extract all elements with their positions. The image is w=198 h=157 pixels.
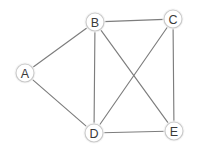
graph-node-c[interactable]: C [162,8,183,29]
graph-node-b[interactable]: B [84,11,105,32]
edge-layer [31,19,174,132]
graph-edge-a-d [31,79,87,128]
node-label-a: A [21,67,30,81]
graph-edge-b-c [103,19,164,21]
node-label-c: C [168,13,177,27]
graph-node-a[interactable]: A [14,62,35,83]
graph-edge-c-e [173,28,174,123]
graph-edge-b-d [94,31,95,125]
node-label-b: B [91,16,99,30]
node-label-d: D [89,127,98,141]
graph-edge-a-b [32,27,88,68]
graph-node-e[interactable]: E [163,120,184,141]
graph-edge-d-e [103,131,166,133]
graph-diagram: ABCDE [0,0,198,157]
node-label-e: E [170,125,178,139]
graph-node-d[interactable]: D [83,122,104,143]
node-layer: ABCDE [14,8,184,143]
